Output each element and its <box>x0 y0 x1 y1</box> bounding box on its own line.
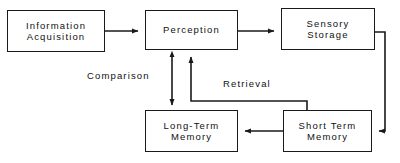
node-long-term-memory-line2: Memory <box>171 131 212 143</box>
node-long-term-memory-line1: Long-Term <box>164 120 220 132</box>
node-perception[interactable]: Perception <box>145 10 238 50</box>
node-short-term-memory-line1: Short Term <box>299 120 357 132</box>
edge-label-comparison: Comparison <box>85 70 152 81</box>
node-sensory-storage[interactable]: Sensory Storage <box>281 8 375 50</box>
edge-label-retrieval: Retrieval <box>221 78 273 89</box>
node-sensory-storage-line2: Storage <box>307 29 348 41</box>
information-processing-diagram: Information Acquisition Perception Senso… <box>0 0 400 163</box>
node-information-acquisition-line2: Acquisition <box>27 31 86 43</box>
node-perception-line1: Perception <box>163 24 220 36</box>
node-short-term-memory-line2: Memory <box>307 131 348 143</box>
node-short-term-memory[interactable]: Short Term Memory <box>283 110 372 152</box>
node-information-acquisition[interactable]: Information Acquisition <box>7 10 105 52</box>
node-information-acquisition-line1: Information <box>26 20 86 32</box>
node-sensory-storage-line1: Sensory <box>307 18 350 30</box>
connector-sensory-to-short-term <box>375 32 385 131</box>
node-long-term-memory[interactable]: Long-Term Memory <box>145 110 238 152</box>
